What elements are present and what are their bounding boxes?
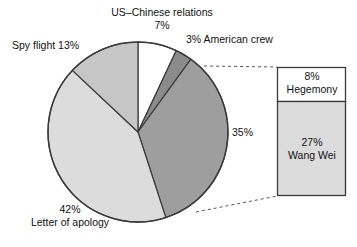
inset-label-wang-wei-percent: 27% bbox=[278, 136, 346, 149]
chart-title: US–Chinese relations bbox=[88, 6, 236, 19]
label-letter-of-apology-name: Letter of apology bbox=[8, 216, 132, 229]
inset-label-hegemony-percent: 8% bbox=[278, 70, 346, 83]
inset-label-hegemony-name: Hegemony bbox=[278, 83, 346, 96]
leader-line-bottom bbox=[196, 196, 277, 212]
leader-line-top bbox=[204, 66, 277, 67]
chart-title-percent: 7% bbox=[88, 19, 236, 32]
label-letter-of-apology-percent: 42% bbox=[24, 203, 116, 216]
label-share-35: 35% bbox=[232, 126, 253, 139]
label-american-crew: 3% American crew bbox=[186, 33, 273, 46]
label-spy-flight: Spy flight 13% bbox=[12, 39, 79, 52]
pie-chart-figure: US–Chinese relations 7% 3% American crew… bbox=[0, 0, 357, 247]
pie-slices bbox=[48, 42, 228, 222]
inset-label-wang-wei-name: Wang Wei bbox=[278, 149, 346, 162]
